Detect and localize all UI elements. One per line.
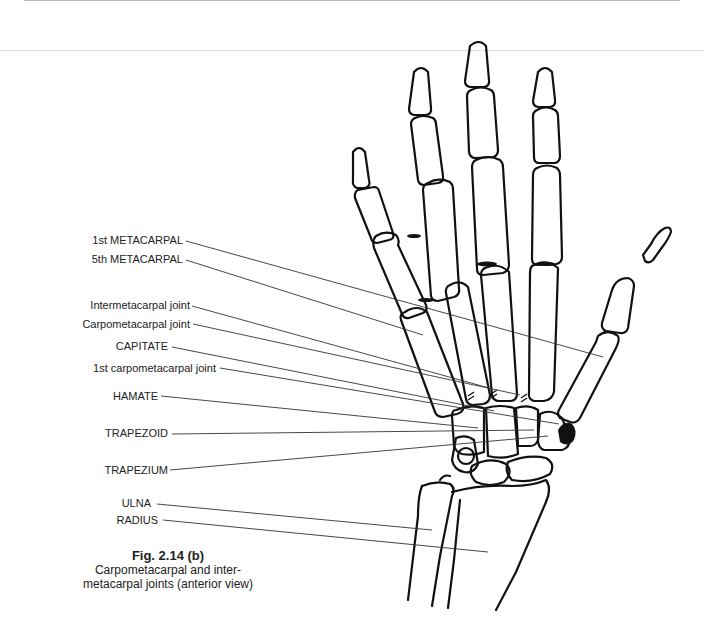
leader-lines [157, 241, 603, 552]
ulna-shaft [422, 482, 454, 606]
label-first-metacarpal: 1st METACARPAL [92, 234, 183, 247]
leader-first-metacarpal [186, 241, 603, 357]
label-fifth-metacarpal: 5th METACARPAL [92, 253, 183, 266]
proximal-phalanx-2 [532, 166, 562, 266]
figure-number: Fig. 2.14 (b) [58, 548, 278, 563]
label-capitate: CAPITATE [116, 340, 168, 353]
capitate [486, 406, 518, 458]
leader-carpometacarpal-joint [193, 324, 520, 395]
hand-skeleton-diagram [0, 0, 704, 624]
first-cmc-joint-fill [558, 423, 576, 445]
leader-intermetacarpal-joint [192, 306, 489, 388]
distal-phalanx-4 [409, 68, 431, 115]
label-first-carpometacarpal-joint: 1st carpometacarpal joint [93, 362, 216, 375]
scaphoid [507, 457, 553, 481]
distal-phalanx-1 [643, 228, 671, 263]
middle-phalanx-5 [355, 187, 394, 243]
lunate [471, 460, 510, 485]
ulnar-styloid [440, 476, 450, 481]
label-intermetacarpal-joint: Intermetacarpal joint [90, 299, 190, 312]
distal-phalanx-2 [533, 68, 555, 107]
caption-line-2: metacarpal joints (anterior view) [58, 577, 278, 591]
metacarpal-1 [558, 332, 619, 423]
label-trapezium: TRAPEZIUM [104, 464, 168, 477]
middle-phalanx-2 [533, 108, 560, 164]
bones [353, 42, 671, 610]
caption-line-1: Carpometacarpal and inter- [58, 563, 278, 577]
pisiform-inner [458, 448, 474, 464]
label-radius: RADIUS [116, 514, 158, 527]
middle-phalanx-4 [411, 116, 443, 185]
trapezoid [516, 406, 538, 446]
leader-trapezoid [172, 430, 534, 434]
figure-caption: Fig. 2.14 (b) Carpometacarpal and inter-… [58, 548, 278, 591]
proximal-phalanx-1 [602, 278, 634, 333]
radius-edge [448, 500, 460, 608]
leader-first-cmc-joint [220, 368, 559, 424]
ulna-edge [408, 486, 422, 600]
label-hamate: HAMATE [113, 390, 158, 403]
middle-phalanx-3 [467, 88, 498, 159]
distal-phalanx-3 [465, 42, 489, 87]
label-trapezoid: TRAPEZOID [105, 427, 168, 440]
proximal-phalanx-3 [472, 157, 509, 275]
label-carpometacarpal-joint: Carpometacarpal joint [82, 318, 190, 331]
label-ulna: ULNA [122, 497, 151, 510]
metacarpal-2 [529, 262, 558, 401]
distal-phalanx-5 [353, 148, 370, 188]
leader-trapezium [170, 436, 548, 470]
leader-ulna [157, 504, 432, 530]
metacarpal-5 [401, 308, 464, 417]
radius-shaft [452, 480, 549, 610]
